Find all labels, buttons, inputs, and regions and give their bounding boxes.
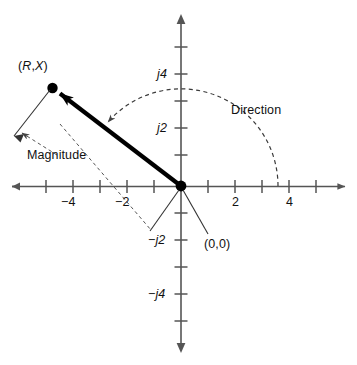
y-tick-label--j2: −j2 [148,234,165,247]
point-label-r: R [22,59,31,73]
y-tick-label-j2: j2 [157,122,167,135]
x-tick-label--2: −2 [115,196,129,209]
x-tick-label-2: 2 [232,196,239,209]
point-label: (R,X) [18,60,48,73]
point-label-x: X [35,59,43,73]
magnitude-leader [14,90,50,143]
y-tick-label--j4: −j4 [148,288,165,301]
direction-label: Direction [231,104,281,117]
origin-leader-left [150,190,179,231]
phasor-vector [47,83,186,192]
x-tick-label--4: −4 [61,196,75,209]
origin-label: (0,0) [204,238,230,251]
origin-leader-right [183,190,208,234]
magnitude-label: Magnitude [27,149,86,162]
x-tick-label-4: 4 [286,196,293,209]
diagram-canvas [0,0,357,365]
y-tick-label-j4: j4 [157,68,167,81]
phasor-diagram-figure: (R,X) Magnitude Direction (0,0) −4 −2 2 … [0,0,357,365]
magnitude-construction-line [60,124,151,230]
